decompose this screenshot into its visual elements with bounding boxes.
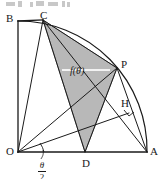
vertex-label-P: P <box>121 59 127 70</box>
segment-CA <box>43 20 147 152</box>
shaded-triangle-group <box>43 20 117 152</box>
angle-denominator: 2 <box>38 172 46 179</box>
shaded-region-triangle-CPD <box>43 20 117 152</box>
geometry-figure: O A B C P H D f(θ) θ 2 <box>0 0 161 179</box>
vertex-label-C: C <box>40 10 47 21</box>
segment-PA <box>117 68 147 152</box>
segment-OH <box>18 113 129 152</box>
shaded-region-label: f(θ) <box>70 66 84 76</box>
figure-canvas <box>0 0 161 179</box>
vertex-label-O: O <box>6 146 14 157</box>
vertex-label-B: B <box>6 13 13 24</box>
vertex-label-A: A <box>150 146 158 157</box>
angle-label-theta-over-two: θ 2 <box>38 161 46 179</box>
angle-numerator: θ <box>38 161 46 171</box>
segment-OC <box>18 20 43 152</box>
vertex-label-D: D <box>82 158 90 169</box>
vertex-label-H: H <box>121 98 129 109</box>
